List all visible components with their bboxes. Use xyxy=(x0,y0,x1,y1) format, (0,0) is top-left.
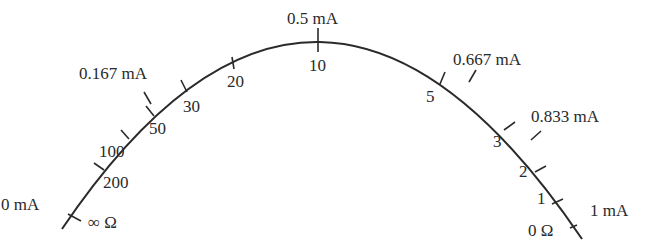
label-inf-ohm: ∞ Ω xyxy=(88,214,117,231)
label-30: 30 xyxy=(183,98,200,115)
tick-20 xyxy=(232,57,234,69)
label-200: 200 xyxy=(103,174,129,191)
tick-0167mA xyxy=(144,92,151,104)
label-0-ohm: 0 Ω xyxy=(528,222,553,239)
label-0ma: 0 mA xyxy=(1,196,39,213)
tick-3 xyxy=(504,122,515,130)
tick-2 xyxy=(535,166,546,172)
label-100: 100 xyxy=(99,143,125,160)
tick-0667mA xyxy=(469,70,476,82)
label-1ma: 1 mA xyxy=(590,202,628,219)
label-0667ma: 0.667 mA xyxy=(453,51,521,68)
label-1: 1 xyxy=(537,190,546,207)
label-50: 50 xyxy=(149,120,166,137)
label-20: 20 xyxy=(227,73,244,90)
label-05ma: 0.5 mA xyxy=(287,10,338,27)
label-0833ma: 0.833 mA xyxy=(531,108,599,125)
label-5: 5 xyxy=(426,88,435,105)
label-10: 10 xyxy=(309,57,326,74)
tick-30 xyxy=(181,80,187,92)
tick-200 xyxy=(94,163,104,170)
tick-50 xyxy=(146,106,154,116)
label-2: 2 xyxy=(519,163,528,180)
label-0167ma: 0.167 mA xyxy=(79,65,147,82)
tick-0833mA xyxy=(531,131,541,140)
ohmmeter-scale-diagram: 0 mA 0.167 mA 0.5 mA 0.667 mA 0.833 mA 1… xyxy=(0,0,647,249)
tick-5 xyxy=(440,72,445,84)
label-3: 3 xyxy=(493,133,502,150)
tick-100 xyxy=(121,130,129,139)
